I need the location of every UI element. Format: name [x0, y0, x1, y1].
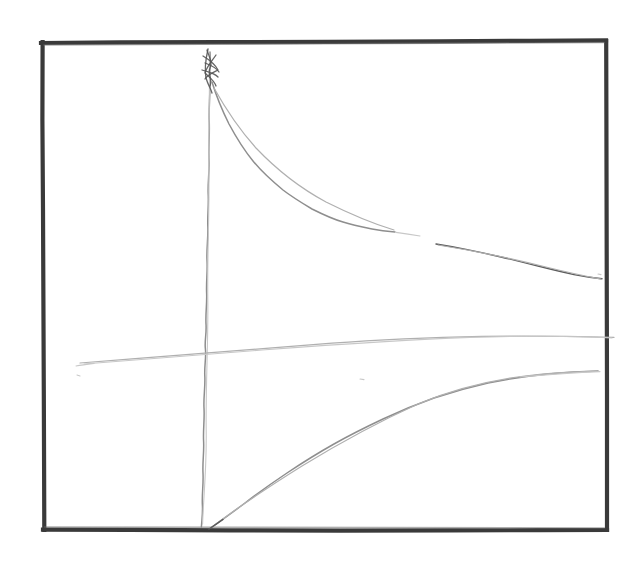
paper-background — [0, 0, 637, 568]
frame-right-edge — [606, 41, 607, 530]
stray-mark-right-upper — [598, 274, 601, 275]
frame-bottom-edge — [43, 530, 607, 531]
hand-drawn-chart-canvas — [0, 0, 637, 568]
sketch-root: Hand-drawn pencil sketch of a chart — [0, 0, 637, 568]
frame-left-edge — [42, 42, 44, 530]
stray-mark-mid-lower — [360, 379, 364, 380]
